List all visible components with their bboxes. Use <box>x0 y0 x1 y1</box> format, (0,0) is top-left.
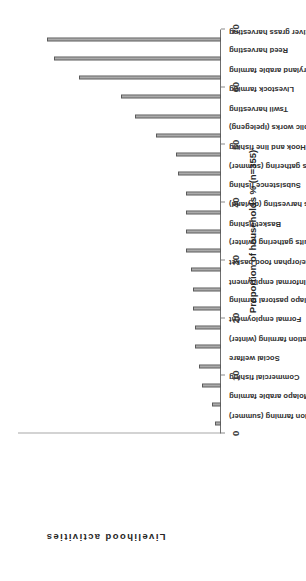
bar-slot <box>18 298 221 317</box>
value-tick-label: 40 <box>230 197 241 207</box>
bar-slot <box>18 414 221 433</box>
category-label: Labour-intensive public works (ipelegeng… <box>229 123 306 132</box>
value-tick-mark <box>221 374 225 375</box>
bar-series <box>18 29 221 433</box>
bar-slot <box>18 356 221 375</box>
bar-slot <box>18 202 221 221</box>
bar <box>156 133 221 137</box>
bar <box>193 287 221 291</box>
bar <box>199 364 221 368</box>
bar-slot <box>18 67 221 86</box>
value-tick-mark <box>221 143 225 144</box>
category-label: Reed harvesting <box>229 46 288 55</box>
value-tick-label: 60 <box>230 82 241 92</box>
bar-slot <box>18 241 221 260</box>
value-tick-label: 20 <box>230 312 241 322</box>
bar <box>191 268 221 272</box>
chart-canvas: 010203040506070 Vegetable irrigation far… <box>0 0 306 581</box>
bar <box>186 210 221 214</box>
bar <box>193 306 221 310</box>
bar-slot <box>18 279 221 298</box>
bar-slot <box>18 164 221 183</box>
value-tick-label: 70 <box>230 24 241 34</box>
plot-area: 010203040506070 <box>18 29 221 433</box>
bar <box>47 37 221 41</box>
bar-slot <box>18 125 221 144</box>
bar <box>186 229 221 233</box>
value-tick-mark <box>221 28 225 29</box>
bar <box>215 421 221 425</box>
bar <box>135 114 221 118</box>
value-axis-title: Proportion of households % (n=355) <box>247 29 258 433</box>
category-axis-title: Livelihood activities <box>6 532 206 543</box>
category-label: River wild fruits gathering (summer) <box>229 161 306 170</box>
bar <box>79 75 221 79</box>
bar <box>195 344 221 348</box>
bar-slot <box>18 337 221 356</box>
bar-slot <box>18 318 221 337</box>
bar-slot <box>18 260 221 279</box>
bar <box>202 383 221 387</box>
bar-slot <box>18 87 221 106</box>
bar-slot <box>18 106 221 125</box>
bar-slot <box>18 221 221 240</box>
bar-slot <box>18 183 221 202</box>
category-label: Subsistence fishing <box>229 181 301 190</box>
bar <box>176 152 221 156</box>
value-tick-label: 30 <box>230 255 241 265</box>
bar <box>186 248 221 252</box>
bar-slot <box>18 375 221 394</box>
value-tick-label: 50 <box>230 139 241 149</box>
category-label: Molapo arable farming <box>229 392 306 401</box>
chart-figure: 010203040506070 Vegetable irrigation far… <box>0 0 306 581</box>
value-tick-label: 0 <box>230 430 241 435</box>
category-label: Molapo pastoral farming <box>229 296 306 305</box>
category-label: Vegetable irrigation farming (summer) <box>229 411 306 420</box>
value-tick-mark <box>221 317 225 318</box>
value-tick-mark <box>221 86 225 87</box>
bar <box>121 94 221 98</box>
bar <box>195 325 221 329</box>
category-label: Dryland arable farming <box>229 65 306 74</box>
bar <box>212 402 221 406</box>
value-tick-mark <box>221 432 225 433</box>
bar-slot <box>18 48 221 67</box>
category-label: River wild fruits gathering (winter) <box>229 238 306 247</box>
category-label: Tswii harvesting <box>229 104 288 113</box>
bar <box>54 56 221 60</box>
bar-slot <box>18 29 221 48</box>
value-tick-mark <box>221 201 225 202</box>
bar <box>186 191 221 195</box>
bar <box>178 171 222 175</box>
value-tick-label: 10 <box>230 370 241 380</box>
category-label: Informal employment <box>229 277 306 286</box>
value-tick-mark <box>221 259 225 260</box>
bar-slot <box>18 144 221 163</box>
bar-slot <box>18 395 221 414</box>
category-label: Vegetable irrigation farming (winter) <box>229 334 306 343</box>
